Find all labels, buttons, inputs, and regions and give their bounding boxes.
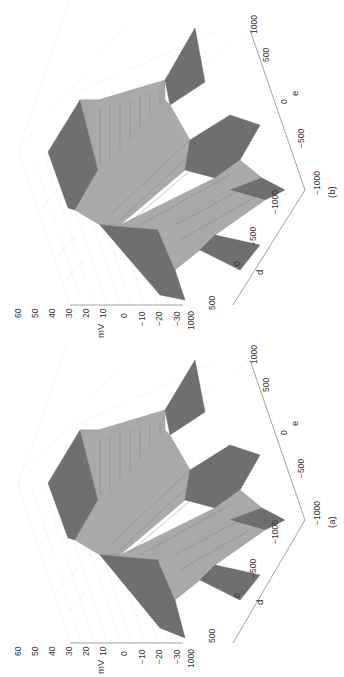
surface-plot-b: 60 50 40 30 20 10 0 −10 −20 −30 mV 1000 … — [0, 0, 344, 338]
svg-text:0: 0 — [232, 261, 242, 266]
svg-text:−10: −10 — [137, 649, 147, 664]
svg-text:−20: −20 — [154, 311, 164, 326]
surface — [48, 28, 285, 300]
svg-text:−500: −500 — [248, 559, 258, 578]
svg-text:1000: 1000 — [249, 345, 259, 364]
svg-text:500: 500 — [207, 629, 217, 643]
svg-text:0: 0 — [232, 593, 242, 598]
svg-text:50: 50 — [30, 646, 40, 656]
svg-text:0: 0 — [119, 313, 129, 318]
svg-text:50: 50 — [30, 308, 40, 318]
surface — [48, 360, 285, 638]
svg-text:d: d — [254, 600, 265, 605]
svg-text:10: 10 — [98, 308, 108, 318]
svg-text:−1000: −1000 — [312, 171, 322, 195]
svg-text:−500: −500 — [248, 227, 258, 246]
z-axis-ticks: 60 50 40 30 20 10 0 −10 −20 −30 mV — [13, 646, 182, 674]
svg-text:−10: −10 — [137, 311, 147, 326]
svg-text:1000: 1000 — [249, 15, 259, 34]
svg-text:30: 30 — [64, 646, 74, 656]
svg-text:−30: −30 — [172, 311, 182, 326]
svg-text:mV: mV — [95, 659, 106, 674]
svg-text:e: e — [289, 421, 300, 426]
svg-text:−1000: −1000 — [270, 520, 280, 544]
svg-text:d: d — [254, 270, 265, 275]
svg-text:−500: −500 — [296, 459, 306, 478]
svg-text:500: 500 — [261, 48, 271, 62]
z-axis-ticks: 60 50 40 30 20 10 0 −10 −20 −30 mV — [13, 308, 182, 338]
svg-text:1000: 1000 — [186, 649, 196, 668]
svg-text:40: 40 — [47, 308, 57, 318]
svg-text:e: e — [289, 91, 300, 96]
svg-text:40: 40 — [47, 646, 57, 656]
caption-a: (a) — [326, 516, 337, 528]
svg-text:60: 60 — [13, 646, 23, 656]
e-axis-ticks: −1000 −500 0 500 1000 e — [249, 345, 322, 525]
svg-text:20: 20 — [81, 308, 91, 318]
svg-text:20: 20 — [81, 646, 91, 656]
svg-text:0: 0 — [119, 651, 129, 656]
svg-text:1000: 1000 — [186, 311, 196, 330]
e-axis-ticks: −1000 −500 0 500 1000 e — [249, 15, 322, 195]
svg-text:−500: −500 — [296, 129, 306, 148]
caption-b: (b) — [326, 186, 337, 198]
svg-text:−1000: −1000 — [270, 190, 280, 214]
svg-text:500: 500 — [207, 296, 217, 310]
svg-text:0: 0 — [279, 430, 289, 435]
chart-panel-a: 60 50 40 30 20 10 0 −10 −20 −30 mV 1000 … — [0, 338, 344, 676]
surface-plot-a: 60 50 40 30 20 10 0 −10 −20 −30 mV 1000 … — [0, 338, 344, 676]
svg-text:10: 10 — [98, 646, 108, 656]
svg-text:0: 0 — [279, 99, 289, 104]
chart-panel-b: 60 50 40 30 20 10 0 −10 −20 −30 mV 1000 … — [0, 0, 344, 338]
svg-text:mV: mV — [95, 323, 106, 338]
svg-text:−1000: −1000 — [312, 501, 322, 525]
svg-text:−20: −20 — [154, 649, 164, 664]
svg-text:−30: −30 — [172, 649, 182, 664]
svg-text:500: 500 — [261, 378, 271, 392]
svg-text:60: 60 — [13, 308, 23, 318]
svg-text:30: 30 — [64, 308, 74, 318]
